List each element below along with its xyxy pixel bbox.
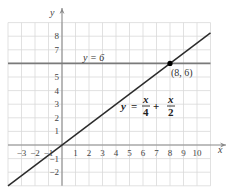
x-axis-label: x: [217, 144, 223, 155]
y-tick-label: 8: [55, 31, 60, 41]
y-tick-label: −2: [49, 167, 59, 177]
y-tick-label: 4: [55, 86, 60, 96]
eq-numerator-2: x: [167, 93, 174, 105]
intersection-point: [167, 61, 172, 66]
y-tick-label: 7: [55, 45, 60, 55]
x-tick-label: 10: [193, 148, 203, 158]
x-tick-label: −3: [17, 148, 27, 158]
y-tick-label: 3: [55, 99, 60, 109]
x-tick-label: 5: [127, 148, 132, 158]
series-lines: [8, 33, 211, 186]
axes: [8, 8, 226, 186]
grid-lines: [8, 23, 211, 186]
point-label: (8, 6): [171, 67, 193, 79]
eq-denominator-1: 4: [143, 106, 149, 118]
x-tick-label: 9: [181, 148, 186, 158]
x-tick-label: 1: [73, 148, 78, 158]
x-tick-label: 2: [87, 148, 92, 158]
eq-y: y: [119, 100, 126, 112]
eq-numerator-1: x: [142, 93, 149, 105]
y-axis-label: y: [49, 7, 55, 18]
x-tick-label: −2: [30, 148, 40, 158]
x-tick-label: 7: [154, 148, 159, 158]
x-tick-label: 3: [100, 148, 105, 158]
x-tick-label: 6: [141, 148, 146, 158]
y-tick-label: 5: [55, 72, 60, 82]
hline-label: y = 6: [82, 52, 104, 63]
x-tick-label: 8: [168, 148, 173, 158]
eq-equals: =: [131, 100, 137, 112]
y-tick-label: 1: [55, 126, 60, 136]
y-tick-label: 2: [55, 113, 60, 123]
y-tick-label: −1: [49, 154, 59, 164]
x-tick-label: 4: [114, 148, 119, 158]
equation-line: [8, 33, 211, 186]
chart-canvas: −3−2−112345678910−2−11234578 y x y = 6 (…: [0, 0, 231, 192]
line-equation-label: y = x 4 + x 2: [119, 93, 175, 118]
eq-denominator-2: 2: [168, 106, 174, 118]
eq-plus: +: [153, 100, 159, 112]
